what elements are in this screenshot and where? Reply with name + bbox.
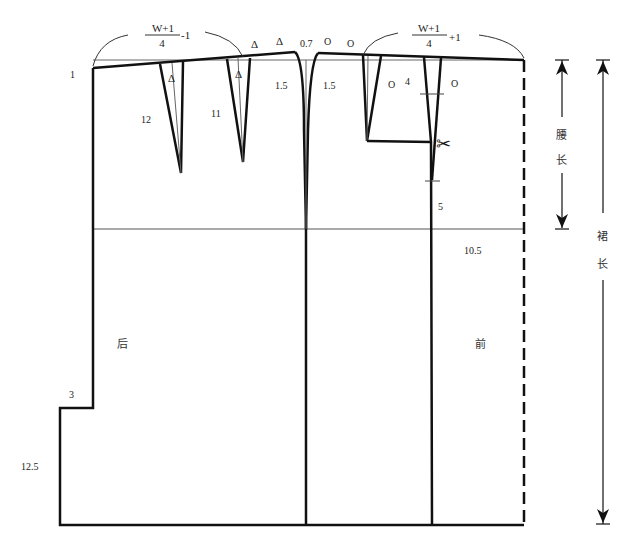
- label-seam-5: 5: [438, 201, 443, 212]
- back-side-seam: [295, 52, 306, 525]
- front-side-seam: [306, 53, 318, 229]
- label-vent-length: 12.5: [21, 461, 39, 472]
- label-waist-length-1: 腰: [556, 129, 567, 142]
- label-back-dart1-length: 12: [141, 114, 151, 125]
- pocket-line: [367, 141, 431, 142]
- label-front-dart2-mark: O: [451, 78, 458, 89]
- back-formula-denominator: 4: [159, 37, 165, 49]
- back-arc-left: [93, 35, 128, 66]
- label-back-dart2-length: 11: [211, 108, 221, 119]
- label-front-piece: 前: [475, 337, 486, 351]
- front-waist-line: [318, 53, 524, 60]
- label-back-piece: 后: [117, 338, 128, 351]
- scissors-icon: ✂: [436, 134, 451, 154]
- back-formula-numerator: W+1: [152, 22, 174, 34]
- label-front-dart1-mark: O: [388, 79, 395, 90]
- front-formula-adjust: +1: [449, 31, 461, 43]
- front-dart-2-right: [432, 58, 441, 180]
- label-waist-length-2: 长: [556, 154, 567, 167]
- label-back-dart1-mark: Δ: [168, 72, 175, 84]
- label-vent-width: 3: [69, 389, 74, 400]
- label-skirt-length-2: 长: [597, 258, 608, 271]
- label-side-raise: 0.7: [300, 38, 313, 49]
- front-formula-numerator: W+1: [418, 22, 440, 34]
- label-side-curve-front: 1.5: [323, 80, 336, 91]
- label-waist-rise: 1: [70, 69, 75, 80]
- label-pocket-offset: 4: [405, 76, 410, 87]
- skirt-pattern-diagram: W+1 4 -1 W+1 4 +1 1 12 11 Δ Δ Δ Δ 0.7 1.…: [0, 0, 636, 550]
- label-o-2: O: [347, 38, 354, 49]
- front-formula-denominator: 4: [426, 37, 432, 49]
- front-arc-left: [363, 33, 398, 55]
- front-arc-right: [479, 35, 524, 58]
- back-arc-right: [205, 32, 243, 57]
- label-back-dart2-mark: Δ: [235, 68, 242, 80]
- label-hip-10-5: 10.5: [464, 245, 482, 256]
- front-dart-1: [363, 55, 381, 141]
- back-formula-adjust: -1: [181, 29, 190, 41]
- back-outline: [60, 68, 306, 525]
- front-panel-seam: [424, 57, 432, 525]
- label-skirt-length-1: 裙: [597, 230, 608, 243]
- label-o-1: O: [324, 36, 331, 47]
- label-delta-1: Δ: [251, 38, 258, 50]
- label-delta-2: Δ: [276, 35, 283, 47]
- label-side-curve-back: 1.5: [275, 80, 288, 91]
